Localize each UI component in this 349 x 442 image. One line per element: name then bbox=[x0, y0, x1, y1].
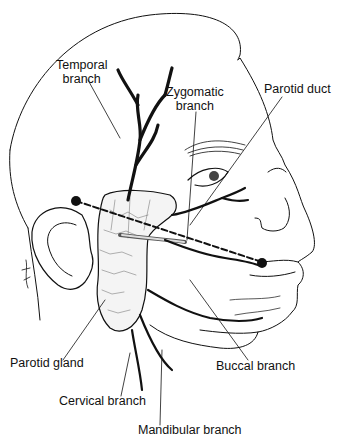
label-cervical-branch: Cervical branch bbox=[59, 394, 146, 408]
artist-signature bbox=[22, 260, 30, 288]
head-back bbox=[10, 150, 28, 228]
jaw-outline bbox=[150, 325, 258, 348]
label-parotid-gland: Parotid gland bbox=[10, 356, 84, 370]
label-mandibular-branch: Mandibular branch bbox=[138, 423, 242, 437]
far-eye bbox=[268, 168, 286, 172]
label-zygomatic-branch: Zygomatic branch bbox=[166, 85, 224, 113]
nose bbox=[255, 198, 289, 231]
leader-lines bbox=[63, 80, 282, 425]
mouth-point bbox=[257, 258, 267, 268]
parotid-gland bbox=[97, 190, 176, 331]
facial-nerve bbox=[118, 68, 172, 200]
ear bbox=[32, 208, 93, 289]
tragus-point bbox=[71, 196, 81, 206]
ear-inner bbox=[48, 223, 76, 276]
iris bbox=[209, 171, 219, 181]
neck-outline bbox=[28, 228, 40, 320]
label-temporal-branch: Temporal branch bbox=[56, 58, 107, 86]
label-parotid-duct: Parotid duct bbox=[264, 82, 331, 96]
facial-nerve-illustration bbox=[0, 0, 349, 442]
eye bbox=[188, 168, 228, 186]
cheek-lines bbox=[230, 296, 280, 315]
label-buccal-branch: Buccal branch bbox=[216, 359, 295, 373]
